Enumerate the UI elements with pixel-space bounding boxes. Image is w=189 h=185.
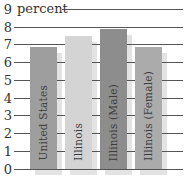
bar-united-states: United States [30, 47, 57, 169]
y-tick-label: 8 [0, 21, 12, 34]
y-tick-label: 6 [0, 56, 12, 69]
y-tick-label: 7 [0, 38, 12, 51]
gridline [14, 44, 183, 45]
bar-illinois-male: Illinois (Male) [100, 29, 127, 169]
y-tick-label: 5 [0, 74, 12, 87]
bar-label: Illinois [72, 123, 84, 161]
gridline [62, 9, 183, 10]
bar-illinois: Illinois [65, 36, 92, 169]
y-tick-label: 4 [0, 92, 12, 105]
y-tick-label: 9 [0, 3, 12, 16]
gridline [14, 27, 183, 28]
y-tick-label: 1 [0, 145, 12, 158]
y-axis-unit-label: percent [17, 1, 68, 16]
y-tick-label: 0 [0, 163, 12, 176]
bar-illinois-female: Illinois (Female) [135, 47, 162, 169]
bar-label: Illinois (Female) [142, 71, 154, 161]
y-tick-label: 3 [0, 109, 12, 122]
bar-chart: percent 0123456789 United StatesIllinois… [0, 0, 189, 185]
bar-label: United States [37, 85, 49, 161]
bar-label: Illinois (Male) [107, 84, 119, 161]
y-tick-label: 2 [0, 127, 12, 140]
